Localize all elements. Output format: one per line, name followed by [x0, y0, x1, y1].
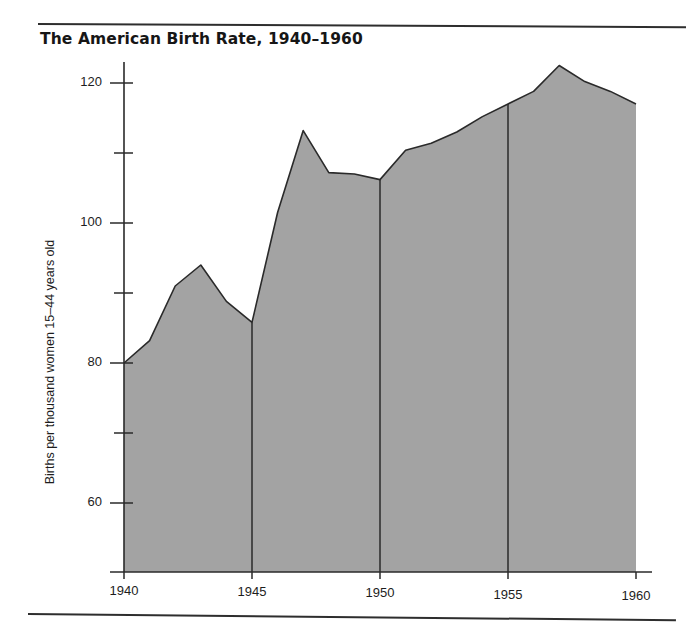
y-tick-label-100: 100 [56, 214, 102, 229]
x-tick-label-1955: 1955 [478, 587, 538, 602]
x-tick-label-1945: 1945 [222, 584, 282, 599]
x-tick-label-1940: 1940 [94, 583, 154, 598]
x-tick-label-1950: 1950 [350, 585, 410, 600]
y-tick-label-80: 80 [56, 354, 102, 369]
chart-plot-area [0, 0, 696, 644]
x-tick-label-1960: 1960 [606, 588, 666, 603]
x-axis-tick-marks [124, 572, 636, 579]
y-tick-label-60: 60 [56, 494, 102, 509]
figure-container: The American Birth Rate, 1940–1960 Birth… [0, 0, 696, 644]
y-tick-label-120: 120 [56, 74, 102, 89]
